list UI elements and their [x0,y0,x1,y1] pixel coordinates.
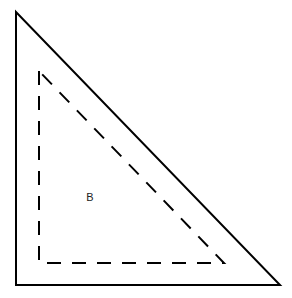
outer-triangle [16,12,280,285]
region-label: B [86,191,93,203]
diagram-canvas: B [0,0,292,298]
inner-dashed-triangle [39,71,224,263]
